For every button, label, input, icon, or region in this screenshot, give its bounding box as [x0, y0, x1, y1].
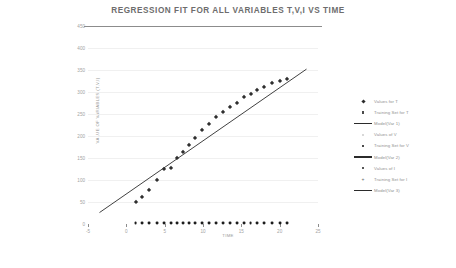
x-tick-mark [203, 224, 204, 227]
y-tick-label: 50 [80, 200, 85, 205]
marker-glyph [354, 156, 372, 157]
legend-item-label: Model(Var 1) [374, 121, 400, 126]
y-tick-label: 0 [82, 222, 85, 227]
marker-glyph [354, 190, 372, 191]
data-point [148, 222, 151, 225]
legend-marker-square-light-icon [352, 134, 374, 137]
legend-marker-diamond-icon [352, 100, 374, 103]
data-point [263, 222, 266, 225]
data-point [271, 222, 274, 225]
legend-item-label: Values of V [374, 132, 397, 137]
data-point [242, 222, 245, 225]
legend-item-label: Training Set for T [374, 110, 409, 115]
legend-marker-line-icon [352, 123, 374, 124]
data-point [134, 222, 137, 225]
legend-item[interactable]: Training Set for T [352, 107, 452, 118]
chart-title: REGRESSION FIT FOR ALL VARIABLES T,V,I V… [0, 6, 456, 15]
data-point [141, 222, 144, 225]
y-tick-label: 350 [77, 68, 85, 73]
data-point [278, 222, 281, 225]
data-point [194, 222, 197, 225]
data-point [215, 222, 218, 225]
x-tick-mark [165, 224, 166, 227]
data-point [162, 222, 165, 225]
data-point [249, 222, 252, 225]
y-tick-label: 100 [77, 178, 85, 183]
data-point [169, 222, 172, 225]
legend-marker-plus-icon: + [352, 177, 374, 182]
data-point [208, 222, 211, 225]
data-point [235, 222, 238, 225]
x-tick-mark [318, 224, 319, 227]
legend-item[interactable]: Values for T [352, 96, 452, 107]
legend-item[interactable]: Values of V [352, 129, 452, 140]
y-tick-label: 400 [77, 46, 85, 51]
chart-legend: Values for TTraining Set for TModel(Var … [352, 96, 452, 196]
marker-glyph [362, 111, 365, 114]
marker-glyph [361, 99, 365, 103]
data-point [182, 222, 185, 225]
data-point [286, 222, 289, 225]
marker-glyph [362, 134, 365, 137]
marker-glyph [362, 145, 365, 148]
data-point [175, 222, 178, 225]
marker-glyph [354, 123, 372, 124]
y-tick-label: 250 [77, 112, 85, 117]
legend-item[interactable]: Values of I [352, 163, 452, 174]
legend-marker-square-icon [352, 145, 374, 148]
legend-item[interactable]: +Training Set for I [352, 174, 452, 185]
y-tick-label: 150 [77, 156, 85, 161]
data-point [256, 222, 259, 225]
plot-area: VALUE OF VARIABLES (T,V,I) 0501001502002… [88, 26, 318, 224]
legend-marker-square-icon [352, 111, 374, 114]
legend-marker-dot-icon [352, 167, 374, 170]
data-point [201, 222, 204, 225]
marker-glyph [362, 167, 365, 170]
legend-item-label: Model(Var 3) [374, 188, 400, 193]
marker-glyph: + [362, 177, 365, 182]
x-tick-mark [126, 224, 127, 227]
legend-marker-line-icon [352, 156, 374, 157]
data-point [156, 222, 159, 225]
chart-figure: REGRESSION FIT FOR ALL VARIABLES T,V,I V… [0, 0, 456, 268]
legend-item-label: Training Set for V [374, 143, 409, 148]
y-tick-label: 200 [77, 134, 85, 139]
data-point [221, 222, 224, 225]
x-axis-label: TIME [0, 233, 456, 238]
regression-line [88, 26, 318, 224]
legend-marker-line-icon [352, 190, 374, 191]
x-tick-mark [88, 224, 89, 227]
data-point [228, 222, 231, 225]
legend-item[interactable]: Training Set for V [352, 140, 452, 151]
legend-item-label: Values for T [374, 99, 398, 104]
legend-item-label: Model(Var 2) [374, 155, 400, 160]
legend-item[interactable]: Model(Var 3) [352, 185, 452, 196]
legend-item-label: Training Set for I [374, 177, 407, 182]
legend-item-label: Values of I [374, 166, 395, 171]
legend-item[interactable]: Model(Var 2) [352, 151, 452, 162]
y-tick-label: 300 [77, 90, 85, 95]
legend-item[interactable]: Model(Var 1) [352, 118, 452, 129]
data-point [188, 222, 191, 225]
